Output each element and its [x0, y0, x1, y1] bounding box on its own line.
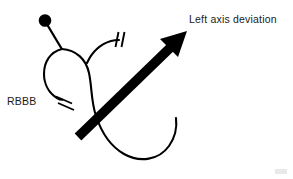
his-bundle-node [39, 14, 52, 27]
cardiac-conduction-block-diagram: RBBB Left axis deviation [0, 0, 293, 179]
rbbb-block-marker [56, 97, 74, 111]
left-axis-deviation-arrow [78, 31, 187, 137]
left-bundle-branch-curve [62, 49, 176, 159]
diagram-canvas [0, 0, 293, 179]
left-anterior-fascicle-curve [87, 40, 119, 63]
fascicular-block-marker [116, 32, 125, 47]
right-bundle-branch-curve [44, 49, 63, 100]
rbbb-label: RBBB [7, 96, 36, 107]
corner-artifact-mark [275, 169, 287, 174]
left-axis-deviation-label: Left axis deviation [189, 14, 277, 25]
